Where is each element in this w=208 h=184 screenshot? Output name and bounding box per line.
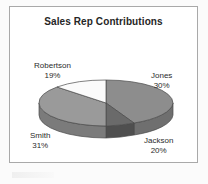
chart-panel: Sales Rep Contributions <box>9 6 198 163</box>
pie-label-robertson: Robertson 19% <box>34 61 71 81</box>
pie-label-smith-percent: 31% <box>30 141 50 151</box>
pie-label-jones-percent: 30% <box>151 81 172 91</box>
pie-label-jackson-percent: 20% <box>144 146 173 156</box>
pie-label-jackson-name: Jackson <box>144 136 173 146</box>
pie-label-smith: Smith 31% <box>30 131 50 151</box>
pie-label-jones-name: Jones <box>151 71 172 81</box>
chart-screenshot: Sales Rep Contributions <box>0 0 208 184</box>
pie-label-robertson-name: Robertson <box>34 61 71 71</box>
pie-label-jackson: Jackson 20% <box>144 136 173 156</box>
pie-label-smith-name: Smith <box>30 131 50 141</box>
scan-artifact <box>12 172 54 178</box>
pie-label-jones: Jones 30% <box>151 71 172 91</box>
pie-chart-area: Robertson 19% Jones 30% Smith 31% Jackso… <box>10 7 197 162</box>
pie-label-robertson-percent: 19% <box>34 71 71 81</box>
